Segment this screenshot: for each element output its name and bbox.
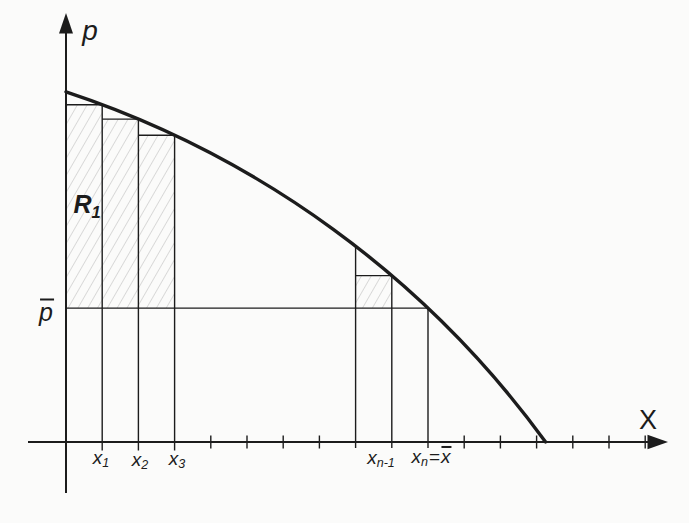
y-axis-arrowhead <box>59 13 73 34</box>
x2-sub: 2 <box>141 458 148 472</box>
tick-label-xn-minus-1: xn-1 <box>367 448 395 470</box>
riemann-sum-figure: p X p R1 x1 x2 x3 xn-1 xn=x <box>0 0 689 523</box>
xn1-base: x <box>367 447 377 468</box>
x2-base: x <box>132 449 142 470</box>
region-label-sub: 1 <box>91 203 100 221</box>
x-bar-glyph: x <box>441 447 451 466</box>
tick-label-x1: x1 <box>93 448 109 470</box>
y-axis-label: p <box>82 17 98 45</box>
tick-label-x3: x3 <box>169 449 185 471</box>
equals-sign: = <box>428 446 441 467</box>
x-axis-label: X <box>639 407 657 434</box>
price-bar-label: p <box>39 300 53 325</box>
diagram-canvas <box>0 0 689 523</box>
hatched-region-small-rect <box>356 276 392 309</box>
xn-base: x <box>411 446 421 467</box>
tick-label-xn-equals-xbar: xn=x <box>411 447 450 469</box>
p-bar-glyph: p <box>39 300 53 325</box>
x3-base: x <box>169 448 179 469</box>
region-r1-label: R1 <box>73 192 100 220</box>
tick-label-x2: x2 <box>132 450 148 472</box>
x1-base: x <box>93 447 103 468</box>
xn1-sub: n-1 <box>377 456 395 470</box>
x-axis-arrowhead <box>648 435 669 449</box>
x1-sub: 1 <box>102 456 109 470</box>
x3-sub: 3 <box>178 457 185 471</box>
region-label-base: R <box>73 190 91 218</box>
